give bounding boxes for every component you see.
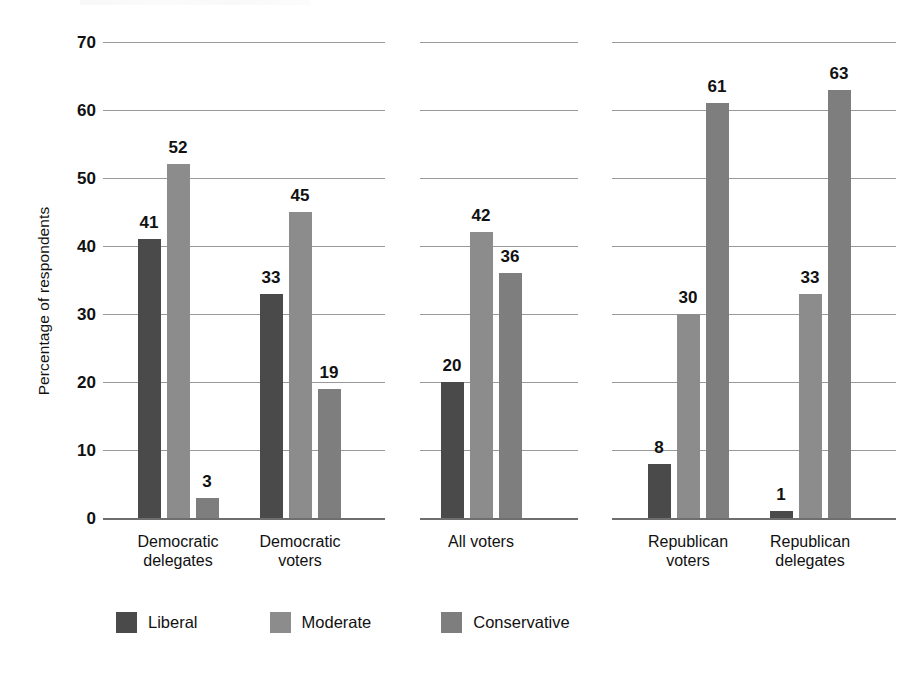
bar-value-label: 63 xyxy=(816,65,863,82)
bar-value-label: 41 xyxy=(126,214,173,231)
gridline xyxy=(103,110,385,111)
gridline xyxy=(612,42,896,43)
legend-item-moderate[interactable]: Moderate xyxy=(270,612,372,633)
y-axis-title: Percentage of respondents xyxy=(35,171,53,431)
legend-label: Liberal xyxy=(148,613,198,632)
bar-moderate xyxy=(677,314,700,518)
legend-item-conservative[interactable]: Conservative xyxy=(441,612,569,633)
chart-legend: LiberalModerateConservative xyxy=(116,612,570,633)
bar-liberal xyxy=(441,382,464,518)
bar-conservative xyxy=(706,103,729,518)
bar-value-label: 19 xyxy=(306,364,353,381)
x-category-label-line: voters xyxy=(205,552,395,571)
bar-liberal xyxy=(138,239,161,518)
bar-value-label: 33 xyxy=(248,269,295,286)
bar-value-label: 8 xyxy=(636,439,683,456)
bar-value-label: 1 xyxy=(758,486,805,503)
y-tick-label: 0 xyxy=(60,510,96,527)
bar-liberal xyxy=(260,294,283,518)
x-category-label: All voters xyxy=(386,533,576,552)
gridline xyxy=(420,110,578,111)
bar-conservative xyxy=(318,389,341,518)
legend-label: Conservative xyxy=(473,613,569,632)
cropped-title-sliver xyxy=(80,0,310,5)
bar-moderate xyxy=(799,294,822,518)
y-tick-label: 50 xyxy=(60,170,96,187)
y-tick-label: 40 xyxy=(60,238,96,255)
bar-value-label: 30 xyxy=(665,289,712,306)
bar-value-label: 20 xyxy=(429,357,476,374)
legend-item-liberal[interactable]: Liberal xyxy=(116,612,198,633)
y-tick-label: 10 xyxy=(60,442,96,459)
bar-chart: Percentage of respondents 01020304050607… xyxy=(0,0,906,682)
gridline xyxy=(612,110,896,111)
bar-moderate xyxy=(470,232,493,518)
gridline xyxy=(612,314,896,315)
gridline xyxy=(103,178,385,179)
gridline xyxy=(612,246,896,247)
y-tick-label: 70 xyxy=(60,34,96,51)
x-category-label-line: delegates xyxy=(715,552,905,571)
bar-value-label: 3 xyxy=(184,473,231,490)
gridline xyxy=(420,246,578,247)
bar-value-label: 52 xyxy=(155,139,202,156)
axis-baseline xyxy=(103,518,385,520)
x-category-label-line: All voters xyxy=(386,533,576,552)
bar-liberal xyxy=(648,464,671,518)
y-tick-label: 20 xyxy=(60,374,96,391)
gridline xyxy=(612,382,896,383)
bar-conservative xyxy=(828,90,851,518)
bar-value-label: 33 xyxy=(787,269,834,286)
gridline xyxy=(103,42,385,43)
bar-moderate xyxy=(167,164,190,518)
axis-baseline xyxy=(420,518,578,520)
bar-value-label: 61 xyxy=(694,78,741,95)
axis-baseline xyxy=(612,518,896,520)
legend-label: Moderate xyxy=(302,613,372,632)
gridline xyxy=(420,42,578,43)
gridline xyxy=(612,178,896,179)
bar-value-label: 36 xyxy=(487,248,534,265)
bar-value-label: 45 xyxy=(277,187,324,204)
x-category-label-line: Republican xyxy=(715,533,905,552)
bar-conservative xyxy=(499,273,522,518)
y-tick-label: 30 xyxy=(60,306,96,323)
gridline xyxy=(420,178,578,179)
legend-swatch-icon xyxy=(441,612,462,633)
legend-swatch-icon xyxy=(270,612,291,633)
x-category-label: Democraticvoters xyxy=(205,533,395,571)
x-category-label-line: Democratic xyxy=(205,533,395,552)
bar-value-label: 42 xyxy=(458,207,505,224)
x-category-label: Republicandelegates xyxy=(715,533,905,571)
bar-conservative xyxy=(196,498,219,518)
y-tick-label: 60 xyxy=(60,102,96,119)
bar-liberal xyxy=(770,511,793,518)
legend-swatch-icon xyxy=(116,612,137,633)
